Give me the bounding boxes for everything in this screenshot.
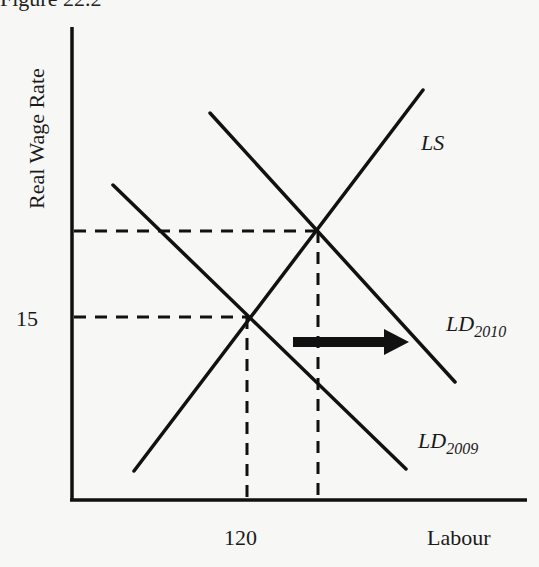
- x-axis-label: Labour: [427, 525, 491, 550]
- x-tick-120: 120: [224, 525, 257, 550]
- ls-curve: [134, 90, 423, 471]
- ld2010-label-sub: 2010: [474, 323, 506, 340]
- ld2009-curve: [113, 185, 406, 469]
- y-axis-label: Real Wage Rate: [24, 68, 49, 209]
- ld2010-label: LD2010: [445, 311, 506, 340]
- labour-market-chart: Real Wage Rate Labour 15 120 LS LD2010 L…: [0, 0, 539, 567]
- ld2009-label-sub: 2009: [446, 440, 478, 457]
- arrow-head: [384, 329, 409, 355]
- ld2010-label-main: LD: [445, 311, 474, 336]
- ld2009-label: LD2009: [417, 428, 478, 457]
- shift-arrow: [293, 329, 409, 355]
- y-tick-15: 15: [16, 306, 38, 331]
- ls-label: LS: [420, 130, 444, 155]
- ld2009-label-main: LD: [417, 428, 446, 453]
